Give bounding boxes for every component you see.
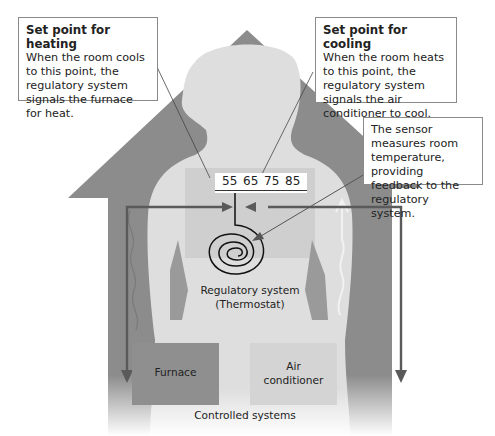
scale-tick-65: 65: [243, 174, 258, 188]
heating-callout-title: Set point for heating: [26, 23, 151, 51]
temperature-scale: 55 65 75 85: [215, 173, 307, 193]
scale-tick-85: 85: [285, 174, 300, 188]
scale-baseline: [215, 190, 307, 191]
heating-callout-body: When the room cools to this point, the r…: [26, 51, 145, 120]
regulatory-system-line1: Regulatory system: [185, 283, 315, 297]
furnace-label: Furnace: [132, 365, 219, 379]
sensor-callout: The sensor measures room temperature, pr…: [363, 117, 483, 185]
cooling-callout-body: When the room heats to this point, the r…: [323, 51, 444, 120]
regulatory-system-label: Regulatory system (Thermostat): [185, 283, 315, 311]
controlled-systems-label: Controlled systems: [170, 408, 320, 422]
arrow-down-ac-icon: [395, 370, 407, 383]
regulatory-system-line2: (Thermostat): [185, 297, 315, 311]
air-conditioner-label: Air conditioner: [250, 359, 337, 387]
cooling-setpoint-callout: Set point for cooling When the room heat…: [315, 17, 457, 103]
heating-setpoint-callout: Set point for heating When the room cool…: [18, 17, 158, 101]
scale-tick-55: 55: [222, 174, 237, 188]
ac-label-line2: conditioner: [250, 373, 337, 387]
scale-tick-75: 75: [264, 174, 279, 188]
ac-label-line1: Air: [250, 359, 337, 373]
cooling-callout-title: Set point for cooling: [323, 23, 450, 51]
